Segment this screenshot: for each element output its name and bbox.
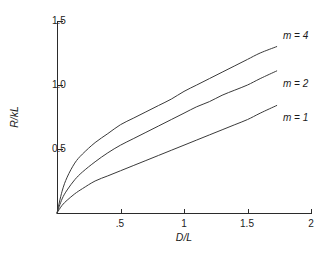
curve-label-m4: m = 4 bbox=[283, 31, 308, 41]
x-tick-label-1: 1 bbox=[181, 219, 187, 229]
curve-m2 bbox=[57, 71, 277, 213]
curve-label-m1: m = 1 bbox=[283, 113, 308, 123]
y-axis-title: R/kL bbox=[9, 106, 20, 128]
x-tick-label-1-5: 1.5 bbox=[240, 219, 254, 229]
plot-canvas bbox=[0, 0, 330, 257]
chart-figure: 1.5 1.0 0.5 .5 1 1.5 2 D/L R/kL m = 4 m … bbox=[0, 0, 330, 257]
x-tick-label-point5: .5 bbox=[116, 219, 124, 229]
x-tick-marks bbox=[122, 209, 312, 214]
axes-group bbox=[57, 21, 311, 214]
curve-m4 bbox=[57, 47, 277, 213]
x-tick-label-2: 2 bbox=[308, 219, 314, 229]
x-axis-title: D/L bbox=[176, 232, 192, 243]
curve-label-m2: m = 2 bbox=[283, 79, 308, 89]
curves-group bbox=[57, 47, 277, 213]
